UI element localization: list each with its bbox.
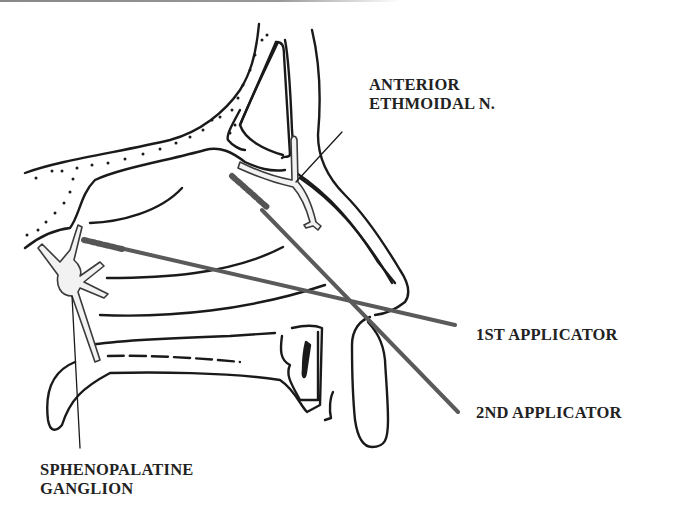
bone-dots: [26, 34, 269, 237]
label-sphenopalatine-line1: SPHENOPALATINE: [40, 460, 193, 479]
turbinates: [90, 188, 325, 316]
label-anterior-ethmoidal-line2: ETHMOIDAL N.: [369, 94, 495, 113]
second-applicator-tip: [232, 176, 268, 208]
skull-outline: [25, 24, 408, 447]
label-second-applicator: 2ND APPLICATOR: [476, 403, 622, 422]
applicators: [84, 176, 458, 412]
label-sphenopalatine-line2: GANGLION: [40, 479, 193, 498]
label-first-applicator: 1ST APPLICATOR: [476, 325, 618, 344]
first-applicator-tip: [84, 240, 122, 249]
label-sphenopalatine-ganglion: SPHENOPALATINE GANGLION: [40, 460, 193, 498]
label-anterior-ethmoidal-line1: ANTERIOR: [369, 75, 495, 94]
nasal-anatomy-drawing: [0, 0, 679, 512]
label-anterior-ethmoidal: ANTERIOR ETHMOIDAL N.: [369, 75, 495, 113]
